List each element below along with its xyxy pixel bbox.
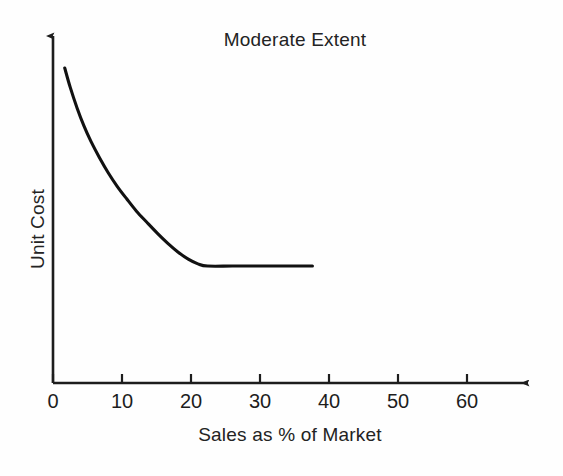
x-tick-label-60: 60 xyxy=(447,390,487,413)
x-tick-label-0: 0 xyxy=(33,390,73,413)
x-axis-title: Sales as % of Market xyxy=(140,424,440,446)
x-tick-label-40: 40 xyxy=(309,390,349,413)
chart-title: Moderate Extent xyxy=(150,29,440,51)
chart-figure: Moderate Extent Unit Cost Sales as % of … xyxy=(0,0,563,476)
y-axis-title: Unit Cost xyxy=(27,174,49,284)
x-tick-label-30: 30 xyxy=(240,390,280,413)
unit-cost-curve xyxy=(65,68,313,266)
x-tick-label-10: 10 xyxy=(102,390,142,413)
x-tick-label-20: 20 xyxy=(171,390,211,413)
x-tick-label-50: 50 xyxy=(378,390,418,413)
x-axis-ticks xyxy=(53,374,467,383)
